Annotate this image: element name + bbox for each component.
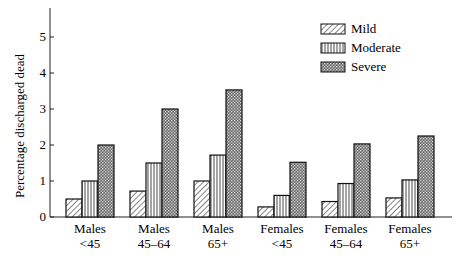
bar-mild (386, 198, 402, 217)
legend-label: Mild (351, 21, 377, 36)
legend-swatch-moderate (321, 43, 345, 53)
x-category-label: Males (138, 221, 170, 236)
x-category-label: Males (202, 221, 234, 236)
x-category-sublabel: 65+ (208, 236, 228, 251)
x-category-label: Females (388, 221, 431, 236)
bar-chart: 012345 Males<45Males45–64Males65+Females… (0, 0, 470, 258)
x-category-sublabel: <45 (272, 236, 292, 251)
x-category-label: Females (260, 221, 303, 236)
y-axis-label: Percentage discharged dead (12, 53, 27, 198)
y-tick-label: 5 (40, 29, 47, 44)
x-category-sublabel: 45–64 (138, 236, 171, 251)
bar-severe (418, 136, 434, 217)
legend-swatch-severe (321, 62, 345, 72)
legend-label: Moderate (351, 40, 401, 55)
bar-moderate (146, 163, 162, 217)
bar-severe (162, 109, 178, 217)
bar-moderate (82, 181, 98, 217)
bar-moderate (274, 195, 290, 217)
bar-moderate (338, 184, 354, 217)
y-tick-label: 1 (40, 173, 47, 188)
x-category-sublabel: 45–64 (330, 236, 363, 251)
y-tick-label: 3 (40, 101, 47, 116)
bar-mild (322, 202, 338, 217)
legend: MildModerateSevere (321, 21, 401, 74)
y-tick-label: 2 (40, 137, 47, 152)
bar-mild (66, 199, 82, 217)
bar-severe (98, 145, 114, 217)
x-category-sublabel: 65+ (400, 236, 420, 251)
y-tick-label: 4 (40, 65, 47, 80)
bar-severe (354, 144, 370, 217)
bar-mild (194, 181, 210, 217)
legend-swatch-mild (321, 24, 345, 34)
bar-moderate (210, 155, 226, 217)
bar-mild (130, 191, 146, 217)
bar-severe (290, 162, 306, 217)
bar-mild (258, 207, 274, 217)
x-category-sublabel: <45 (80, 236, 100, 251)
bar-severe (226, 90, 242, 217)
bar-moderate (402, 180, 418, 217)
y-tick-label: 0 (40, 209, 47, 224)
x-category-label: Females (324, 221, 367, 236)
x-category-label: Males (74, 221, 106, 236)
legend-label: Severe (351, 59, 387, 74)
bars: Males<45Males45–64Males65+Females<45Fema… (66, 90, 434, 251)
